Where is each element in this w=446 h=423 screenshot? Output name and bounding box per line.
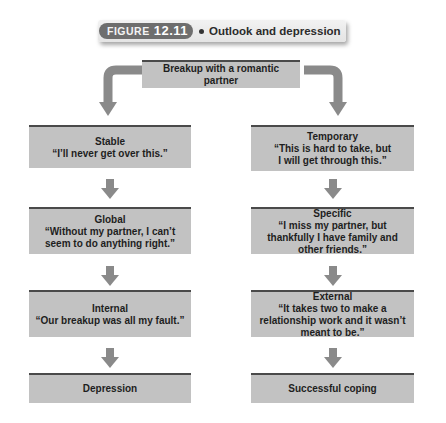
global-quote: “Without my partner, I can’t seem to do … — [33, 226, 187, 250]
specific-quote: “I miss my partner, but thankfully I hav… — [255, 220, 410, 256]
global-heading: Global — [94, 214, 125, 226]
temporary-quote: “This is hard to take, but I will get th… — [255, 143, 410, 167]
down-arrow-icon — [324, 266, 342, 286]
down-arrow-icon — [324, 179, 342, 199]
external-box: External “It takes two to make a relatio… — [251, 290, 414, 337]
successful-coping-outcome-box: Successful coping — [251, 373, 414, 403]
down-arrow-icon — [101, 348, 119, 368]
stable-box: Stable “I’ll never get over this.” — [29, 125, 191, 168]
internal-quote: “Our breakup was all my fault.” — [36, 315, 185, 327]
temporary-heading: Temporary — [307, 131, 358, 143]
down-arrow-icon — [101, 266, 119, 286]
figure-caption-banner: FIGURE 12.11 Outlook and depression — [98, 20, 346, 42]
specific-box: Specific “I miss my partner, but thankfu… — [251, 207, 414, 254]
root-event-box: Breakup with a romantic partner — [142, 60, 300, 88]
depression-label: Depression — [83, 383, 137, 395]
figure-number: 12.11 — [154, 23, 188, 39]
figure-tag: FIGURE 12.11 — [99, 23, 193, 39]
external-heading: External — [313, 291, 352, 303]
successful-coping-label: Successful coping — [288, 383, 376, 395]
global-box: Global “Without my partner, I can’t seem… — [29, 207, 191, 254]
internal-heading: Internal — [92, 303, 128, 315]
root-event-label: Breakup with a romantic partner — [146, 63, 296, 87]
figure-title: Outlook and depression — [209, 25, 341, 37]
branch-arrow-left-icon — [96, 64, 142, 118]
stable-heading: Stable — [95, 136, 125, 148]
figure-label: FIGURE — [107, 23, 150, 39]
bullet-icon — [199, 29, 204, 34]
down-arrow-icon — [324, 348, 342, 368]
specific-heading: Specific — [313, 208, 351, 220]
internal-box: Internal “Our breakup was all my fault.” — [29, 290, 191, 337]
depression-outcome-box: Depression — [29, 373, 191, 403]
down-arrow-icon — [101, 179, 119, 199]
branch-arrow-right-icon — [304, 64, 350, 118]
temporary-box: Temporary “This is hard to take, but I w… — [251, 125, 414, 171]
stable-quote: “I’ll never get over this.” — [52, 148, 168, 160]
external-quote: “It takes two to make a relationship wor… — [255, 303, 410, 339]
